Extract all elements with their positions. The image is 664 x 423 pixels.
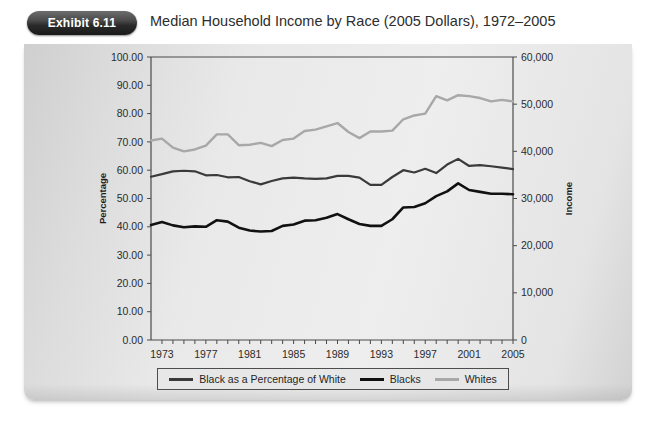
x-axis-tick-label: 1989	[326, 348, 350, 360]
left-axis-tick-label: 70.00	[117, 136, 143, 148]
left-axis-tick-label: 100.00	[111, 51, 143, 63]
legend-item: Blacks	[360, 373, 421, 385]
left-axis-tick-label: 30.00	[117, 249, 143, 261]
left-axis-tick-label: 40.00	[117, 220, 143, 232]
chart-legend: Black as a Percentage of WhiteBlacksWhit…	[157, 368, 509, 390]
right-axis-tick-label: 60,000	[521, 51, 553, 63]
legend-swatch-icon	[435, 378, 459, 381]
left-axis-title: Percentage	[97, 173, 108, 224]
right-axis-tick-label: 30,000	[521, 192, 553, 204]
left-axis-tick-label: 90.00	[117, 79, 143, 91]
x-axis-tick-label: 1977	[194, 348, 218, 360]
legend-swatch-icon	[169, 378, 193, 381]
left-axis-tick-label: 50.00	[117, 192, 143, 204]
x-axis-tick-label: 1997	[414, 348, 438, 360]
line-chart: 100.0090.0080.0070.0060.0050.0040.0030.0…	[0, 0, 664, 423]
left-axis-tick-label: 20.00	[117, 277, 143, 289]
left-axis-tick-label: 0.00	[123, 334, 144, 346]
exhibit-figure: Exhibit 6.11 Median Household Income by …	[0, 0, 664, 423]
legend-item: Black as a Percentage of White	[169, 373, 346, 385]
legend-label: Whites	[465, 373, 497, 385]
right-axis-tick-label: 10,000	[521, 286, 553, 298]
right-axis-title: Income	[563, 182, 574, 215]
left-axis-tick-label: 80.00	[117, 107, 143, 119]
x-axis-tick-label: 1985	[282, 348, 306, 360]
right-axis-tick-label: 0	[521, 334, 527, 346]
legend-label: Blacks	[390, 373, 421, 385]
legend-item: Whites	[435, 373, 497, 385]
series-line-whites	[151, 95, 513, 151]
x-axis-tick-label: 1993	[370, 348, 394, 360]
left-axis-tick-label: 10.00	[117, 305, 143, 317]
right-axis-tick-label: 40,000	[521, 145, 553, 157]
series-line-blacks	[151, 183, 513, 231]
series-line-black-as-a-percentage-of-white	[151, 159, 513, 185]
chart-area: 100.0090.0080.0070.0060.0050.0040.0030.0…	[0, 0, 664, 423]
left-axis-tick-label: 60.00	[117, 164, 143, 176]
x-axis-tick-label: 1981	[238, 348, 262, 360]
x-axis-tick-label: 1973	[150, 348, 174, 360]
x-axis-tick-label: 2001	[457, 348, 481, 360]
legend-label: Black as a Percentage of White	[199, 373, 346, 385]
right-axis-tick-label: 20,000	[521, 239, 553, 251]
x-axis-tick-label: 2005	[501, 348, 525, 360]
legend-swatch-icon	[360, 378, 384, 381]
right-axis-tick-label: 50,000	[521, 98, 553, 110]
